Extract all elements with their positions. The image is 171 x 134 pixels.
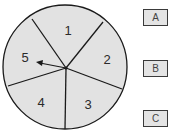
section-label-3: 3 bbox=[84, 97, 91, 112]
section-label-1: 1 bbox=[64, 23, 71, 38]
section-label-5: 5 bbox=[21, 50, 28, 65]
option-c-box[interactable]: C bbox=[143, 110, 168, 127]
section-label-4: 4 bbox=[37, 95, 44, 110]
section-label-2: 2 bbox=[103, 52, 110, 67]
option-b-box[interactable]: B bbox=[143, 60, 168, 77]
option-a-box[interactable]: A bbox=[143, 9, 168, 26]
